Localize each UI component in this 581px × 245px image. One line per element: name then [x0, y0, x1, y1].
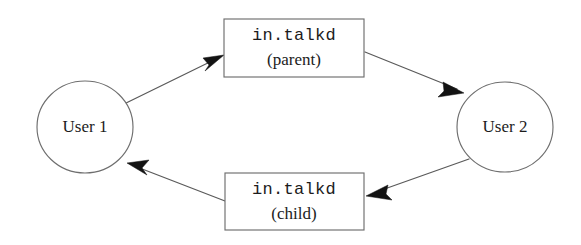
edge-child-to-user1-line — [137, 167, 225, 201]
node-user-2-label: User 2 — [483, 117, 528, 136]
arrowhead-into-user2-icon — [438, 82, 464, 97]
node-talkd-parent-label-primary: in.talkd — [252, 26, 336, 45]
edge-child-to-user1 — [127, 160, 225, 201]
talkd-flow-diagram: User 1 in.talkd (parent) User 2 in.talkd… — [0, 0, 581, 245]
node-user-1[interactable]: User 1 — [37, 81, 133, 173]
node-layer: User 1 in.talkd (parent) User 2 in.talkd… — [37, 19, 553, 230]
edge-user1-to-parent — [122, 55, 224, 105]
node-user-1-label: User 1 — [63, 117, 108, 136]
edge-user2-to-child — [366, 159, 469, 200]
node-talkd-child-label-secondary: (child) — [271, 204, 316, 223]
edge-user2-to-child-line — [376, 159, 469, 192]
edge-user1-to-parent-line — [122, 58, 218, 105]
node-talkd-child-label-primary: in.talkd — [252, 180, 336, 199]
diagram-canvas: User 1 in.talkd (parent) User 2 in.talkd… — [0, 0, 581, 245]
node-talkd-parent[interactable]: in.talkd (parent) — [224, 19, 364, 77]
node-user-2[interactable]: User 2 — [457, 82, 553, 172]
node-talkd-child[interactable]: in.talkd (child) — [225, 173, 364, 230]
arrowhead-into-user1-icon — [127, 160, 149, 175]
edge-parent-to-user2 — [365, 52, 464, 97]
arrowhead-into-parent-icon — [203, 55, 224, 71]
node-talkd-parent-label-secondary: (parent) — [267, 50, 321, 69]
